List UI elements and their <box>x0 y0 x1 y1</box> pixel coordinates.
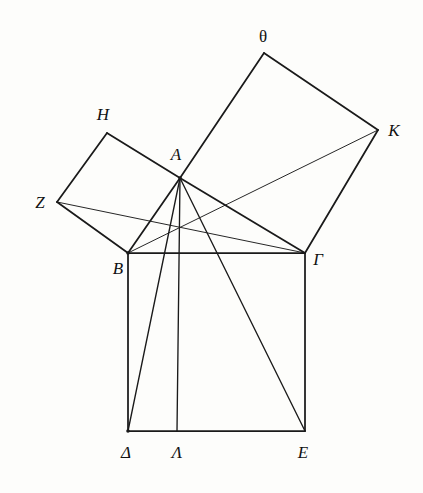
point-label-a: A <box>170 145 182 164</box>
point-label-e: E <box>297 443 309 462</box>
vertex-dot-delta <box>126 429 130 433</box>
point-label-b: B <box>113 259 124 278</box>
altitude-A-Lambda <box>177 178 180 431</box>
point-label-theta: θ <box>259 27 267 46</box>
point-label-delta: Δ <box>120 443 131 462</box>
square-Theta-K <box>264 53 378 130</box>
point-label-lambda: Λ <box>170 443 183 462</box>
square-A-H <box>107 133 180 178</box>
point-label-gamma: Γ <box>312 250 324 269</box>
geometry-figure-canvas: ABΓΔEΛZHθK <box>0 0 423 493</box>
vertex-dot-a <box>178 176 182 180</box>
euclid-i47-diagram: ABΓΔEΛZHθK <box>0 0 423 493</box>
square-H-Z <box>57 133 107 202</box>
vertex-dot-b <box>126 251 130 255</box>
diagonal-Z-Gamma <box>57 202 305 253</box>
square-A-Theta <box>180 53 264 178</box>
point-label-h: H <box>96 105 111 124</box>
point-label-k: K <box>387 121 401 140</box>
point-labels-layer: ABΓΔEΛZHθK <box>35 27 401 462</box>
point-label-z: Z <box>35 193 45 212</box>
